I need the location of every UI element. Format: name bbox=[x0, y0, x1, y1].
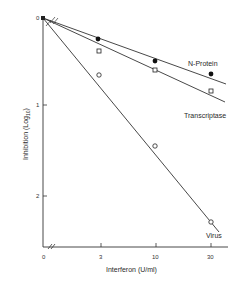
x-tick-10: 10 bbox=[152, 254, 159, 260]
x-tick-3: 3 bbox=[99, 254, 103, 260]
inhibition-chart: 0 1 2 0 3 10 30 Interferon (U/ml) Inhibi… bbox=[0, 0, 244, 290]
transcriptase-points bbox=[97, 49, 213, 93]
x-axis-title: Interferon (U/ml) bbox=[106, 266, 157, 274]
transcriptase-label: Transcriptase bbox=[184, 112, 226, 120]
y-tick-2: 2 bbox=[36, 193, 40, 199]
y-tick-1: 1 bbox=[36, 102, 40, 108]
axes bbox=[43, 18, 228, 249]
virus-label: Virus bbox=[206, 232, 222, 239]
virus-points bbox=[97, 73, 213, 224]
x-tick-30: 30 bbox=[207, 254, 214, 260]
x-tick-0: 0 bbox=[42, 254, 46, 260]
y-tick-0: 0 bbox=[36, 15, 40, 21]
y-axis-title: Inhibition (Log10) bbox=[22, 108, 31, 160]
svg-text:Inhibition (Log10): Inhibition (Log10) bbox=[22, 108, 31, 160]
series-lines bbox=[43, 17, 226, 232]
n-protein-label: N-Protein bbox=[188, 60, 218, 67]
origin-marker bbox=[41, 16, 45, 20]
